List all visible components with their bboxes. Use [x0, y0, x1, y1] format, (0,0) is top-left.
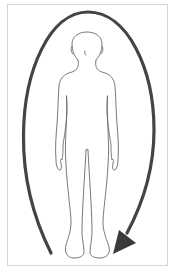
- frame-border: [8, 5, 168, 266]
- diagram-svg: [0, 0, 174, 273]
- diagram-canvas: Front-view outline of a standing human f…: [0, 0, 174, 273]
